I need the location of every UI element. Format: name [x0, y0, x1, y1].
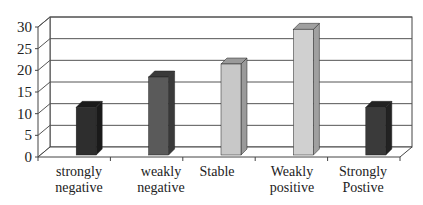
bar	[293, 23, 319, 155]
x-label-2: Stable	[177, 164, 257, 180]
y-tick-label: 25	[17, 41, 32, 57]
y-tick-label: 30	[17, 19, 32, 35]
bar	[221, 58, 247, 155]
x-label-0: strongly negative	[39, 164, 119, 196]
x-label-4: Strongly Postive	[323, 164, 403, 196]
y-tick-label: 15	[17, 84, 32, 100]
x-label-3: Weakly positive	[252, 164, 332, 196]
y-tick-label: 5	[25, 127, 33, 143]
y-tick-label: 10	[17, 106, 32, 122]
bar	[149, 71, 175, 155]
bar	[366, 101, 392, 155]
y-tick-label: 20	[17, 62, 32, 78]
y-tick-label: 0	[25, 149, 33, 165]
bar	[76, 101, 102, 155]
